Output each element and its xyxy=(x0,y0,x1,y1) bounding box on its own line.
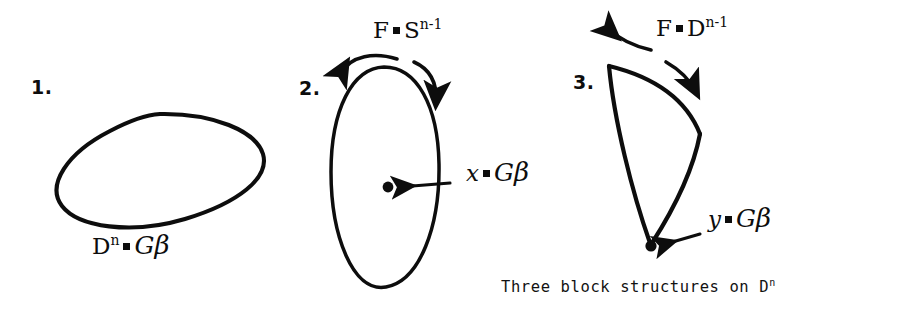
figure-1-label-base: D xyxy=(92,233,110,259)
figure-1-number: 1. xyxy=(31,76,52,98)
figure-2-fiber-base: F xyxy=(373,17,389,43)
equals-square-icon xyxy=(393,27,400,34)
figure-3-label-gothic: G xyxy=(736,204,756,233)
equals-square-icon xyxy=(483,170,490,177)
figure-2-center-dot xyxy=(383,182,394,193)
figure-1-label-beta: β xyxy=(154,230,169,260)
equals-square-icon xyxy=(123,243,130,250)
figure-3-fiber-base: F xyxy=(656,15,672,41)
figure-3-fiber-exponent: n-1 xyxy=(705,14,728,30)
figure-3-fiber-label: FDn-1 xyxy=(656,14,728,41)
equals-square-icon xyxy=(676,25,683,32)
diagram-page: 1. 2. 3. DnGβ FSn-1 xGβ FDn-1 yGβ Three … xyxy=(0,0,919,326)
figure-3-label: yGβ xyxy=(708,203,771,233)
figure-2-label-base: x xyxy=(466,160,479,186)
figure-1-label: DnGβ xyxy=(92,230,170,260)
figure-2-fiber-label: FSn-1 xyxy=(373,16,442,43)
figure-3-wedge xyxy=(609,66,700,243)
figure-1-ellipse xyxy=(57,114,264,228)
figure-1-label-gothic: G xyxy=(134,231,154,260)
caption-superscript: n xyxy=(769,277,776,288)
figure-3-number: 3. xyxy=(573,71,594,93)
caption: Three block structures on Dn xyxy=(501,277,776,296)
figure-2-number: 2. xyxy=(299,77,320,99)
figure-3-fiber-target: D xyxy=(687,15,705,41)
figure-2-fiber-exponent: n-1 xyxy=(420,16,443,32)
figure-2-label-gothic: G xyxy=(494,158,514,187)
figure-3-apex-arrow xyxy=(662,234,700,245)
figure-3-arrow-downright xyxy=(666,62,696,92)
figure-3-label-beta: β xyxy=(756,203,771,233)
figure-1-label-exponent: n xyxy=(110,232,119,248)
figure-2-label-beta: β xyxy=(514,157,529,187)
figure-2-ellipse xyxy=(331,67,439,287)
figure-3-apex-dot xyxy=(645,240,656,251)
figure-2-center-arrow xyxy=(400,183,450,187)
ink-layer xyxy=(0,0,919,326)
figure-2-label: xGβ xyxy=(466,157,529,187)
figure-2-fiber-target: S xyxy=(404,17,420,43)
figure-3-label-base: y xyxy=(708,206,721,232)
figure-3-arrow-upleft xyxy=(607,28,651,50)
equals-square-icon xyxy=(725,216,732,223)
caption-text: Three block structures on D xyxy=(501,278,769,296)
